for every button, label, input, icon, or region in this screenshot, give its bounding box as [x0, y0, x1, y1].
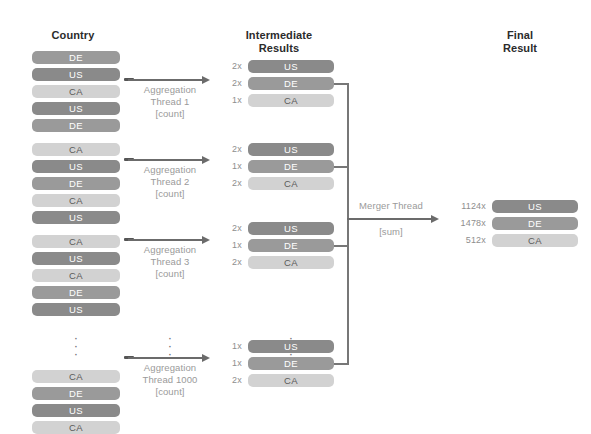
thread-label-line2: Thread 1	[124, 96, 216, 108]
merger-connector-stub-3	[334, 245, 348, 247]
intermediate-row: US	[248, 143, 334, 156]
aggregation-arrow-line-1	[128, 79, 204, 81]
country-row: DE	[32, 286, 120, 299]
thread-label-line3: [count]	[124, 268, 216, 280]
aggregation-thread-label-4: Aggregation Thread 1000 [count]	[120, 362, 220, 398]
intermediate-row: CA	[248, 256, 334, 269]
merger-arrow-line	[347, 218, 433, 220]
merger-arrow-head	[431, 215, 439, 223]
country-row: US	[32, 303, 120, 316]
intermediate-count: 1x	[212, 340, 242, 353]
aggregation-arrow-head-1	[202, 76, 210, 84]
final-count: 1478x	[444, 217, 486, 230]
country-row: DE	[32, 119, 120, 132]
final-row: CA	[492, 234, 578, 247]
thread-label-line3: [count]	[120, 386, 220, 398]
aggregation-thread-label-2: Aggregation Thread 2 [count]	[124, 164, 216, 200]
merger-connector-stub-4	[334, 363, 348, 365]
thread-label-line1: Aggregation	[124, 244, 216, 256]
country-row: CA	[32, 143, 120, 156]
merger-connector-spine	[347, 83, 349, 365]
aggregation-arrow-head-4	[202, 354, 210, 362]
intermediate-count: 1x	[212, 239, 242, 252]
intermediate-row: DE	[248, 77, 334, 90]
column-title-country: Country	[18, 29, 128, 42]
country-row: CA	[32, 235, 120, 248]
merger-label-line2: [sum]	[345, 226, 437, 238]
column-title-final-line2: Result	[470, 42, 570, 55]
thread-label-line2: Thread 1000	[120, 374, 220, 386]
intermediate-count: 2x	[212, 60, 242, 73]
aggregation-column-ellipsis: ···	[164, 334, 176, 358]
aggregation-thread-label-1: Aggregation Thread 1 [count]	[124, 84, 216, 120]
country-row: US	[32, 160, 120, 173]
merger-connector-stub-2	[334, 166, 348, 168]
column-title-final-result: Final Result	[470, 29, 570, 55]
intermediate-row: DE	[248, 239, 334, 252]
thread-label-line2: Thread 2	[124, 176, 216, 188]
country-row: CA	[32, 269, 120, 282]
intermediate-count: 1x	[212, 94, 242, 107]
intermediate-row: CA	[248, 94, 334, 107]
country-row: US	[32, 68, 120, 81]
intermediate-count: 2x	[212, 143, 242, 156]
intermediate-count: 2x	[212, 256, 242, 269]
country-row: DE	[32, 177, 120, 190]
aggregation-arrow-line-3	[128, 239, 204, 241]
intermediate-row: US	[248, 222, 334, 235]
aggregation-arrow-line-2	[128, 159, 204, 161]
aggregation-arrow-head-2	[202, 156, 210, 164]
country-row: US	[32, 404, 120, 417]
aggregation-arrow-line-4	[128, 357, 204, 359]
thread-label-line3: [count]	[124, 108, 216, 120]
intermediate-count: 2x	[212, 222, 242, 235]
country-row: CA	[32, 85, 120, 98]
final-row: DE	[492, 217, 578, 230]
thread-label-line3: [count]	[124, 188, 216, 200]
column-title-intermediate-line2: Results	[220, 42, 338, 55]
intermediate-count: 1x	[212, 160, 242, 173]
column-title-intermediate-results: Intermediate Results	[220, 29, 338, 55]
merger-operation-label: [sum]	[345, 226, 437, 238]
intermediate-row: DE	[248, 160, 334, 173]
intermediate-count: 2x	[212, 77, 242, 90]
country-row: DE	[32, 387, 120, 400]
merger-connector-stub-1	[334, 83, 348, 85]
merger-thread-label: Merger Thread	[345, 200, 437, 212]
country-row: CA	[32, 421, 120, 434]
thread-label-line1: Aggregation	[124, 84, 216, 96]
intermediate-row: US	[248, 60, 334, 73]
aggregation-thread-label-3: Aggregation Thread 3 [count]	[124, 244, 216, 280]
merger-label-line1: Merger Thread	[345, 200, 437, 212]
country-row: US	[32, 102, 120, 115]
intermediate-row: DE	[248, 357, 334, 370]
country-row: CA	[32, 194, 120, 207]
aggregation-arrow-head-3	[202, 236, 210, 244]
final-count: 1124x	[444, 200, 486, 213]
country-row: DE	[32, 51, 120, 64]
thread-label-line1: Aggregation	[124, 164, 216, 176]
intermediate-count: 1x	[212, 357, 242, 370]
intermediate-row: US	[248, 340, 334, 353]
country-column-ellipsis: ···	[70, 334, 82, 358]
column-title-final-line1: Final	[470, 29, 570, 42]
thread-label-line1: Aggregation	[120, 362, 220, 374]
intermediate-row: CA	[248, 177, 334, 190]
intermediate-count: 2x	[212, 177, 242, 190]
final-row: US	[492, 200, 578, 213]
final-count: 512x	[444, 234, 486, 247]
column-title-intermediate-line1: Intermediate	[220, 29, 338, 42]
country-row: US	[32, 252, 120, 265]
intermediate-row: CA	[248, 374, 334, 387]
country-row: CA	[32, 370, 120, 383]
thread-label-line2: Thread 3	[124, 256, 216, 268]
intermediate-count: 2x	[212, 374, 242, 387]
country-row: US	[32, 211, 120, 224]
